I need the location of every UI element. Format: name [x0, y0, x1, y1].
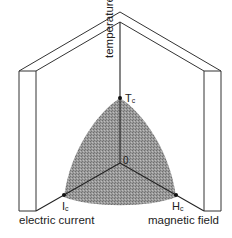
hc-symbol: H: [172, 200, 180, 212]
hc-subscript: c: [180, 205, 184, 212]
critical-field-label: Hc: [172, 201, 183, 212]
ic-subscript: c: [65, 205, 69, 212]
ic-point-marker: [62, 193, 66, 197]
tc-subscript: c: [132, 97, 136, 104]
electric-current-axis-label: electric current: [19, 215, 94, 227]
magnetic-field-axis-label: magnetic field: [148, 215, 219, 227]
temperature-axis-label: temperature: [104, 0, 116, 58]
superconductivity-phase-diagram: [0, 0, 232, 238]
tc-symbol: T: [125, 92, 132, 104]
tc-point-marker: [118, 96, 122, 100]
hc-point-marker: [174, 193, 178, 197]
origin-label: 0: [123, 156, 129, 166]
critical-temperature-label: Tc: [125, 93, 135, 104]
critical-current-label: Ic: [62, 201, 69, 212]
